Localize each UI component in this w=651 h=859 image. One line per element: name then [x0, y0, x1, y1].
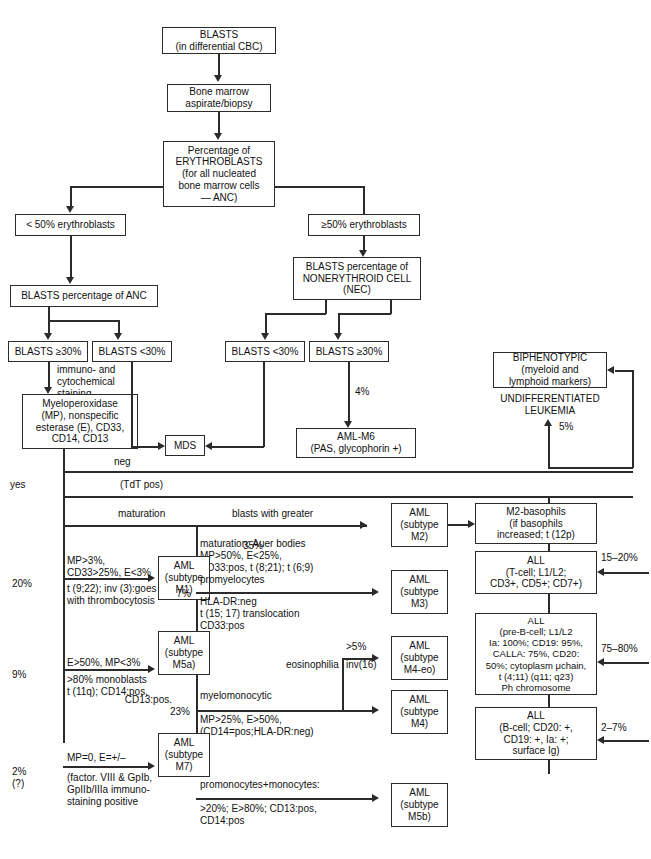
edge-anc-split-h [48, 320, 120, 322]
arrowhead-left [597, 658, 604, 666]
label-promonocytes-monocytes: promonocytes+monocytes: [200, 779, 320, 791]
node-aml-m6-label: AML-M6 (PAS, glycophorin +) [300, 431, 412, 455]
label-percent-5: 5% [559, 421, 573, 433]
edge-nec-split-v2 [390, 300, 392, 314]
node-aml-m6: AML-M6 (PAS, glycophorin +) [296, 428, 416, 458]
label-promyelocytes: promyelocytes [200, 574, 264, 586]
node-aml-m4eo: AML (subtype M4-eo) [391, 636, 448, 680]
arrowhead-right [468, 520, 475, 528]
bus-maturation [63, 525, 367, 527]
arrowhead-down [66, 206, 74, 213]
edge-biphenotypic-in [615, 370, 633, 372]
node-aml-m3-label: AML (subtype M3) [395, 574, 444, 609]
criteria-m7-top: MP=0, E=+/– [67, 752, 177, 764]
node-nec-blasts-lt30: BLASTS <30% [225, 341, 305, 362]
node-aml-m4: AML (subtype M4) [391, 690, 448, 734]
label-percent-15-20: 15–20% [601, 552, 638, 564]
edge-undiff-bus [548, 467, 633, 469]
edge-nec-split-v1 [325, 300, 327, 314]
label-maturation: maturation [118, 508, 165, 520]
node-nec-blasts-ge30-label: BLASTS ≥30% [313, 346, 385, 358]
node-lt50-erythroblasts: < 50% erythroblasts [15, 214, 126, 236]
arrowhead-right [372, 654, 379, 662]
node-anc-blasts-lt30-label: BLASTS <30% [96, 346, 168, 358]
arrowhead-left [205, 442, 212, 450]
node-anc-blasts-lt30: BLASTS <30% [92, 341, 172, 362]
edge-to-m5a [63, 669, 150, 671]
node-undifferentiated-label: UNDIFFERENTIATED LEUKEMIA [496, 393, 604, 417]
trunk-left-vertical [63, 525, 65, 743]
edge-nec-split-hl [265, 313, 326, 315]
node-erythroblast-percentage-label: Percentage of ERYTHROBLASTS (for all nuc… [167, 145, 271, 204]
node-blasts-percentage-nec: BLASTS percentage of NONERYTHROID CELL (… [293, 257, 421, 300]
edge-neclt30-down [263, 362, 265, 447]
label-percent-2: 2% [12, 766, 26, 778]
node-mpo-panel-label: Myeloperoxidase (MP), nonspecific estera… [26, 398, 134, 445]
edge-anclt30-down [131, 362, 133, 447]
node-bone-marrow-label: Bone marrow aspirate/biopsy [171, 86, 267, 110]
label-yes: yes [10, 479, 26, 491]
edge-right-spine [632, 370, 634, 468]
node-aml-m2: AML (subtype M2) [391, 503, 448, 547]
arrowhead-right [372, 588, 379, 596]
node-anc-blasts-ge30-label: BLASTS ≥30% [12, 346, 84, 358]
edge-to-m3 [196, 592, 374, 594]
edge-prebcell-in [604, 662, 649, 664]
criteria-m1-bottom: t (9;22); inv (3):goes with thrombocytos… [67, 583, 167, 607]
label-eosinophilia: eosinophilia [286, 659, 339, 671]
arrowhead-up [544, 419, 552, 426]
edge-undiff-up [548, 425, 550, 468]
edge-nec-left-down [265, 313, 267, 335]
node-blasts-label: BLASTS (in differential CBC) [166, 29, 272, 53]
bus-neg-left-drop [63, 471, 65, 497]
node-blasts-percentage-nec-label: BLASTS percentage of NONERYTHROID CELL (… [297, 261, 417, 296]
edge-erythro-left-down [70, 186, 72, 208]
edge-to-m4 [196, 710, 374, 712]
edge-anc-split-v1 [48, 307, 50, 321]
arrowhead-down [214, 75, 222, 82]
node-aml-m5a-label: AML (subtype M5a) [162, 635, 206, 670]
label-percent-gt5: >5% [346, 641, 366, 653]
edge-to-m4eo [342, 658, 374, 660]
node-all-prebcell-label: ALL (pre-B-cell; L1/L2 Ia: 100%; CD19: 9… [479, 615, 593, 693]
criteria-m3-detail: HLA-DR:neg t (15; 17) translocation CD33… [200, 596, 365, 632]
node-all-tcell: ALL (T-cell; L1/L2; CD3+, CD5+; CD7+) [475, 551, 597, 594]
criteria-m5a-top: E>50%, MP<3% [67, 657, 167, 669]
node-aml-m5b-label: AML (subtype M5b) [395, 787, 444, 822]
bus-tdt-left-drop [63, 496, 65, 526]
bus-neg [63, 471, 633, 473]
node-nec-blasts-ge30: BLASTS ≥30% [309, 341, 389, 362]
label-percent-20: 20% [12, 578, 32, 590]
edge-ge30-to-mpo [48, 362, 50, 390]
criteria-m4-detail: MP>25%, E>50%, (CD14=pos;HLA-DR:neg) [200, 714, 370, 738]
edge-nec-split-hr [338, 313, 391, 315]
arrowhead-right [158, 442, 165, 450]
node-nec-blasts-lt30-label: BLASTS <30% [229, 346, 301, 358]
arrowhead-down [261, 333, 269, 340]
node-aml-m5b: AML (subtype M5b) [391, 783, 448, 827]
node-bone-marrow: Bone marrow aspirate/biopsy [167, 84, 271, 112]
node-mds: MDS [165, 435, 205, 456]
arrowhead-down [344, 421, 352, 428]
edge-erythro-right-down [363, 186, 365, 216]
edge-neclt30-to-mds [212, 446, 264, 448]
label-blasts-with-greater: blasts with greater [232, 508, 313, 520]
node-biphenotypic: BIPHENOTYPIC (myeloid and lymphoid marke… [493, 352, 607, 388]
edge-to-m7 [63, 766, 150, 768]
node-undifferentiated-leukemia-text: UNDIFFERENTIATED LEUKEMIA [493, 391, 607, 419]
node-ge50-erythroblasts: ≥50% erythroblasts [308, 214, 420, 236]
arrowhead-right [360, 521, 367, 529]
edge-necge30-down [348, 362, 350, 424]
node-all-tcell-label: ALL (T-cell; L1/L2; CD3+, CD5+; CD7+) [479, 555, 593, 590]
edge-to-m5b [196, 798, 374, 800]
node-m2-basophils-label: M2-basophils (if basophils increased; t … [479, 506, 593, 541]
arrowhead-down [66, 277, 74, 284]
edge-erythro-right [274, 186, 364, 188]
label-percent-2-question: (?) [12, 778, 24, 790]
node-m2-basophils: M2-basophils (if basophils increased; t … [475, 503, 597, 544]
node-aml-m3: AML (subtype M3) [391, 570, 448, 614]
arrowhead-right [372, 794, 379, 802]
node-ge50-erythroblasts-label: ≥50% erythroblasts [312, 219, 416, 231]
edge-nec-right-down [338, 313, 340, 335]
arrowhead-left [607, 366, 614, 374]
